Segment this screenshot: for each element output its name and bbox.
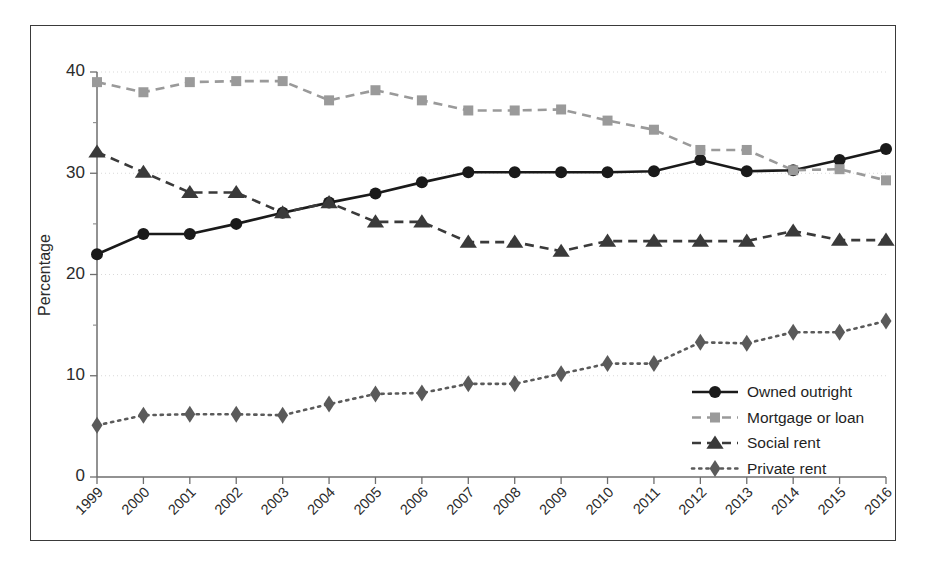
data-point (460, 235, 477, 248)
data-point (370, 385, 381, 402)
data-point (695, 145, 705, 155)
legend-item-private-rent[interactable]: Private rent (692, 460, 827, 477)
data-point (462, 166, 474, 178)
data-point (509, 166, 521, 178)
x-tick-label: 2009 (536, 484, 570, 518)
x-axis-group: 1999200020012002200320042005200620072008… (72, 477, 895, 518)
data-point (788, 165, 798, 175)
data-point (741, 165, 753, 177)
x-tick-label: 2001 (165, 484, 199, 518)
data-point (138, 407, 149, 424)
data-point (463, 105, 473, 115)
data-point (135, 165, 152, 178)
series-line-mortgage-or-loan (97, 81, 886, 180)
legend-marker (710, 460, 721, 477)
series-line-owned-outright (97, 149, 886, 254)
legend-marker (710, 413, 720, 423)
data-point (137, 228, 149, 240)
line-chart: 010203040 199920002001200220032004200520… (0, 0, 929, 565)
data-point (785, 223, 802, 236)
data-point (881, 175, 891, 185)
data-point (324, 396, 335, 413)
data-point (835, 164, 845, 174)
data-point (877, 233, 894, 246)
data-point (417, 95, 427, 105)
data-point (834, 324, 845, 341)
chart-legend: Owned outrightMortgage or loanSocial ren… (692, 383, 864, 477)
x-tick-label: 2006 (397, 484, 431, 518)
data-point (370, 85, 380, 95)
data-point (602, 166, 614, 178)
x-tick-label: 2002 (211, 484, 245, 518)
data-point (277, 407, 288, 424)
chart-svg: 010203040 199920002001200220032004200520… (0, 0, 929, 565)
legend-marker (709, 386, 721, 398)
data-point (742, 145, 752, 155)
x-tick-label: 2010 (583, 484, 617, 518)
legend-label: Mortgage or loan (747, 409, 864, 426)
data-point (463, 375, 474, 392)
data-point (278, 76, 288, 86)
data-point (138, 87, 148, 97)
x-tick-label: 2005 (350, 484, 384, 518)
data-point (648, 165, 660, 177)
y-tick-label: 20 (66, 264, 85, 283)
data-point (695, 334, 706, 351)
x-tick-label: 2000 (118, 484, 152, 518)
data-point (603, 116, 613, 126)
data-point (230, 218, 242, 230)
data-point (91, 248, 103, 260)
data-point (602, 355, 613, 372)
data-point (694, 154, 706, 166)
data-point (788, 324, 799, 341)
x-tick-label: 2015 (815, 484, 849, 518)
legend-item-social-rent[interactable]: Social rent (692, 434, 821, 451)
y-tick-label: 0 (76, 466, 85, 485)
data-point (88, 144, 105, 157)
data-point (510, 105, 520, 115)
x-tick-label: 2008 (490, 484, 524, 518)
data-point (648, 355, 659, 372)
series-mortgage-or-loan (92, 76, 891, 185)
data-point (649, 125, 659, 135)
x-tick-label: 2014 (768, 484, 802, 518)
data-point (184, 406, 195, 423)
data-point (741, 335, 752, 352)
data-point (880, 143, 892, 155)
data-point (509, 375, 520, 392)
x-tick-label: 2007 (443, 484, 477, 518)
data-point (231, 406, 242, 423)
data-point (184, 228, 196, 240)
data-point (555, 166, 567, 178)
data-point (185, 77, 195, 87)
data-point (416, 384, 427, 401)
legend-label: Owned outright (747, 383, 853, 400)
data-point (324, 95, 334, 105)
series-group (88, 76, 894, 434)
x-tick-label: 2016 (861, 484, 895, 518)
data-point (506, 235, 523, 248)
x-tick-label: 1999 (72, 484, 106, 518)
x-tick-label: 2012 (675, 484, 709, 518)
y-axis-title: Percentage (36, 234, 53, 316)
data-point (92, 77, 102, 87)
gridlines-group (97, 72, 886, 376)
legend-label: Social rent (747, 434, 821, 451)
x-tick-label: 2011 (630, 484, 663, 517)
legend-item-mortgage-or-loan[interactable]: Mortgage or loan (692, 409, 864, 426)
data-point (231, 76, 241, 86)
x-tick-label: 2003 (258, 484, 292, 518)
data-point (369, 188, 381, 200)
y-axis-group: 010203040 (66, 61, 97, 485)
data-point (556, 104, 566, 114)
data-point (881, 313, 892, 330)
x-tick-label: 2004 (304, 484, 338, 518)
data-point (556, 365, 567, 382)
series-line-social-rent (97, 152, 886, 251)
y-tick-label: 40 (66, 61, 85, 80)
y-tick-label: 10 (66, 365, 85, 384)
legend-item-owned-outright[interactable]: Owned outright (692, 383, 853, 400)
legend-label: Private rent (747, 460, 827, 477)
data-point (416, 176, 428, 188)
x-tick-label: 2013 (722, 484, 756, 518)
